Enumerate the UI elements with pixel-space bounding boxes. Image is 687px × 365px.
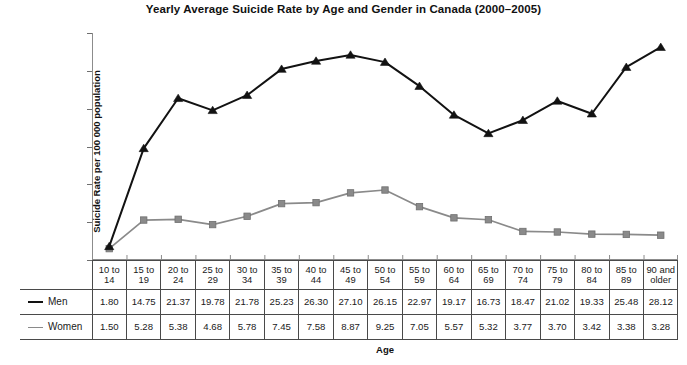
data-table-container: 10 to1415 to1920 to2425 to2930 to3435 to… xyxy=(20,260,678,340)
column-header-age: 60 to64 xyxy=(437,261,471,290)
chart-title: Yearly Average Suicide Rate by Age and G… xyxy=(0,3,687,15)
column-header-age: 75 to79 xyxy=(540,261,574,290)
table-cell-value: 7.58 xyxy=(299,315,333,340)
data-point-marker xyxy=(451,215,457,221)
table-cell-value: 5.32 xyxy=(471,315,505,340)
table-cell-value: 18.47 xyxy=(506,290,540,315)
column-header-line: 49 xyxy=(334,275,367,285)
table-cell-value: 28.12 xyxy=(644,290,678,315)
column-header-line: 24 xyxy=(161,275,194,285)
table-cell-value: 5.78 xyxy=(230,315,264,340)
data-point-marker xyxy=(244,213,250,219)
chart-figure: Yearly Average Suicide Rate by Age and G… xyxy=(0,0,687,365)
data-point-marker xyxy=(518,116,527,123)
table-row: Men1.8014.7521.3719.7821.7825.2326.3027.… xyxy=(20,290,678,315)
column-header-line: 29 xyxy=(196,275,229,285)
column-header-age: 90 andolder xyxy=(644,261,678,290)
column-header-age: 20 to24 xyxy=(161,261,195,290)
column-header-age: 40 to44 xyxy=(299,261,333,290)
table-cell-value: 27.10 xyxy=(333,290,367,315)
table-cell-value: 22.97 xyxy=(402,290,436,315)
column-header-age: 70 to74 xyxy=(506,261,540,290)
table-header-corner xyxy=(20,261,92,290)
data-point-marker xyxy=(382,187,388,193)
column-header-line: older xyxy=(644,275,677,285)
table-cell-value: 26.30 xyxy=(299,290,333,315)
column-header-line: 74 xyxy=(506,275,539,285)
column-header-age: 45 to49 xyxy=(333,261,367,290)
column-header-line: 14 xyxy=(93,275,126,285)
column-header-age: 55 to59 xyxy=(402,261,436,290)
table-cell-value: 1.80 xyxy=(92,290,126,315)
column-header-line: 34 xyxy=(230,275,263,285)
table-row: Women1.505.285.384.685.787.457.588.879.2… xyxy=(20,315,678,340)
column-header-age: 50 to54 xyxy=(368,261,402,290)
data-table: 10 to1415 to1920 to2425 to2930 to3435 to… xyxy=(20,260,678,340)
data-point-marker xyxy=(416,203,422,209)
column-header-line: 19 xyxy=(127,275,160,285)
column-header-line: 69 xyxy=(472,275,505,285)
table-cell-value: 3.28 xyxy=(644,315,678,340)
table-cell-value: 5.57 xyxy=(437,315,471,340)
data-point-marker xyxy=(485,217,491,223)
column-header-line: 64 xyxy=(437,275,470,285)
table-cell-value: 5.28 xyxy=(126,315,160,340)
column-header-age: 85 to89 xyxy=(609,261,643,290)
column-header-age: 25 to29 xyxy=(195,261,229,290)
data-point-marker xyxy=(622,63,631,70)
data-point-marker xyxy=(175,216,181,222)
legend-label: Women xyxy=(48,322,82,333)
series-plot xyxy=(92,33,678,260)
table-cell-value: 7.05 xyxy=(402,315,436,340)
column-header-line: 79 xyxy=(541,275,574,285)
data-point-marker xyxy=(278,200,284,206)
data-point-marker xyxy=(658,232,664,238)
data-point-marker xyxy=(347,190,353,196)
table-cell-value: 9.25 xyxy=(368,315,402,340)
legend-line-icon xyxy=(28,301,43,303)
column-header-line: 89 xyxy=(610,275,643,285)
data-point-marker xyxy=(141,217,147,223)
table-cell-value: 3.77 xyxy=(506,315,540,340)
table-cell-value: 8.87 xyxy=(333,315,367,340)
column-header-line: 44 xyxy=(299,275,332,285)
table-cell-value: 19.78 xyxy=(195,290,229,315)
data-point-marker xyxy=(589,231,595,237)
table-cell-value: 19.17 xyxy=(437,290,471,315)
table-header-row: 10 to1415 to1920 to2425 to2930 to3435 to… xyxy=(20,261,678,290)
table-cell-value: 3.70 xyxy=(540,315,574,340)
column-header-line: 59 xyxy=(403,275,436,285)
table-cell-value: 3.42 xyxy=(575,315,609,340)
table-cell-value: 25.23 xyxy=(264,290,298,315)
x-axis-title: Age xyxy=(92,344,678,355)
table-cell-value: 26.15 xyxy=(368,290,402,315)
column-header-age: 80 to84 xyxy=(575,261,609,290)
series-women xyxy=(106,187,664,252)
plot-area: Suicide Rate per 100 000 population 0.00… xyxy=(92,33,678,260)
table-cell-value: 16.73 xyxy=(471,290,505,315)
table-cell-value: 7.45 xyxy=(264,315,298,340)
column-header-age: 15 to19 xyxy=(126,261,160,290)
table-cell-value: 5.38 xyxy=(161,315,195,340)
table-cell-value: 19.33 xyxy=(575,290,609,315)
data-point-marker xyxy=(623,231,629,237)
data-point-marker xyxy=(313,199,319,205)
table-cell-value: 1.50 xyxy=(92,315,126,340)
table-cell-value: 21.78 xyxy=(230,290,264,315)
column-header-age: 30 to34 xyxy=(230,261,264,290)
data-point-marker xyxy=(520,228,526,234)
table-cell-value: 25.48 xyxy=(609,290,643,315)
table-cell-value: 3.38 xyxy=(609,315,643,340)
column-header-line: 39 xyxy=(265,275,298,285)
column-header-line: 84 xyxy=(575,275,608,285)
table-cell-value: 4.68 xyxy=(195,315,229,340)
column-header-age: 10 to14 xyxy=(92,261,126,290)
data-point-marker xyxy=(554,229,560,235)
legend-item-women: Women xyxy=(20,315,92,340)
table-cell-value: 21.02 xyxy=(540,290,574,315)
column-header-line: 54 xyxy=(368,275,401,285)
data-point-marker xyxy=(553,97,562,104)
data-point-marker xyxy=(209,221,215,227)
column-header-age: 35 to39 xyxy=(264,261,298,290)
column-header-age: 65 to69 xyxy=(471,261,505,290)
